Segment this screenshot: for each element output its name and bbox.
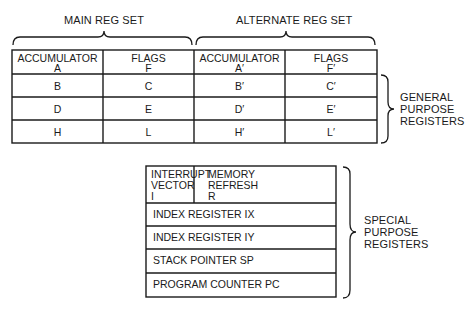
register-b: B: [12, 81, 103, 91]
main-set-brace: [13, 31, 192, 45]
special-purpose-registers-label: SPECIAL PURPOSE REGISTERS: [364, 214, 428, 250]
register-d-prime: D′: [194, 104, 285, 114]
general-purpose-brace: [381, 75, 394, 143]
general-purpose-registers-label: GENERAL PURPOSE REGISTERS: [400, 91, 464, 127]
register-b-prime: B′: [194, 81, 285, 91]
register-h-prime: H′: [194, 127, 285, 137]
alternate-set-brace: [196, 31, 375, 45]
header-cell-accumulator-a: ACCUMULATOR A: [12, 53, 103, 73]
memory-refresh-register: MEMORY REFRESH R: [194, 169, 336, 202]
header-cell-accumulator-a-prime: ACCUMULATOR A′: [194, 53, 285, 73]
index-register-iy: INDEX REGISTER IY: [146, 232, 336, 243]
register-c-prime: C′: [285, 81, 377, 91]
register-l: L: [103, 127, 194, 137]
alternate-reg-set-label: ALTERNATE REG SET: [236, 14, 352, 26]
register-c: C: [103, 81, 194, 91]
register-d: D: [12, 104, 103, 114]
register-l-prime: L′: [285, 127, 377, 137]
stack-pointer-sp: STACK POINTER SP: [146, 255, 336, 266]
register-e: E: [103, 104, 194, 114]
index-register-ix: INDEX REGISTER IX: [146, 209, 336, 220]
header-cell-flags-f: FLAGS F: [103, 53, 194, 73]
main-reg-set-label: MAIN REG SET: [64, 14, 144, 26]
program-counter-pc: PROGRAM COUNTER PC: [146, 279, 336, 290]
interrupt-vector-register: INTERRUPT VECTOR I: [146, 169, 194, 202]
register-h: H: [12, 127, 103, 137]
header-cell-flags-f-prime: FLAGS F′: [285, 53, 377, 73]
special-purpose-brace: [343, 167, 356, 298]
diagram-lines: [0, 0, 474, 314]
register-e-prime: E′: [285, 104, 377, 114]
